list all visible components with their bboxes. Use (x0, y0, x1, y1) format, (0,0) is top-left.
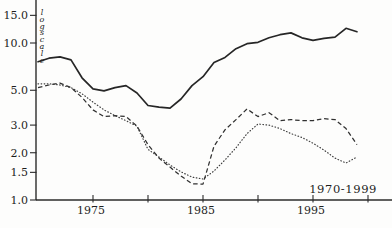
x-tick-label: 1995 (297, 204, 325, 217)
y-tick-label: 15.0 (4, 9, 29, 22)
figure-canvas: 15.010.05.03.02.01.51.0197519851995 log … (0, 0, 392, 228)
series-line-dotted (38, 84, 357, 179)
x-tick-label: 1985 (187, 204, 215, 217)
y-axis-log-scale-note: log scale (39, 10, 45, 64)
series-line-dashed (38, 83, 357, 184)
date-range-annotation: 1970-1999 (309, 182, 377, 196)
y-tick-label: 1.5 (11, 166, 29, 179)
y-tick-label: 5.0 (11, 84, 29, 97)
y-tick-label: 3.0 (11, 119, 29, 132)
y-tick-label: 2.0 (11, 147, 29, 160)
x-tick-label: 1975 (77, 204, 105, 217)
y-tick-label: 1.0 (11, 194, 29, 207)
y-tick-label: 10.0 (4, 37, 29, 50)
